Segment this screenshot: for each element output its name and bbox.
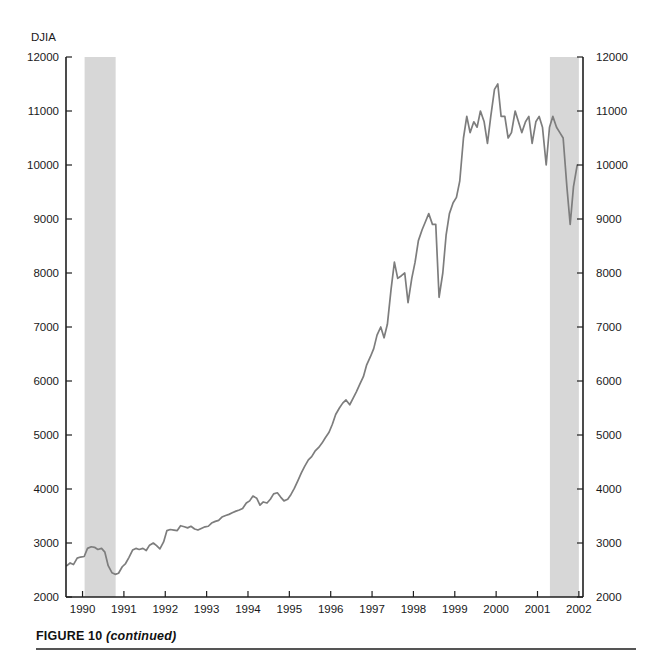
recession-2001 — [550, 57, 579, 597]
figure-container: 2000300040005000600070008000900010000110… — [0, 0, 663, 657]
y-tick-label-left-6000: 6000 — [33, 375, 59, 387]
recession-1990-1991 — [85, 57, 116, 597]
y-tick-label-right-11000: 11000 — [596, 105, 627, 117]
djia-line-chart: 2000300040005000600070008000900010000110… — [0, 0, 663, 620]
y-tick-label-left-5000: 5000 — [33, 429, 59, 441]
y-tick-label-left-4000: 4000 — [33, 483, 59, 495]
x-tick-label-1994: 1994 — [235, 603, 261, 615]
x-tick-label-1998: 1998 — [401, 603, 427, 615]
chart-tick-labels: 2000300040005000600070008000900010000110… — [27, 51, 628, 615]
x-tick-label-1990: 1990 — [70, 603, 96, 615]
x-tick-label-1995: 1995 — [277, 603, 303, 615]
y-tick-label-left-11000: 11000 — [28, 105, 59, 117]
y-tick-label-right-7000: 7000 — [596, 321, 622, 333]
y-tick-label-left-2000: 2000 — [33, 591, 59, 603]
y-axis-title: DJIA — [31, 31, 56, 43]
figure-caption-note: (continued) — [106, 629, 176, 643]
x-tick-label-1996: 1996 — [318, 603, 344, 615]
y-tick-label-right-3000: 3000 — [596, 537, 622, 549]
x-tick-label-1993: 1993 — [194, 603, 220, 615]
x-tick-label-1992: 1992 — [152, 603, 178, 615]
y-tick-label-left-3000: 3000 — [33, 537, 59, 549]
figure-caption-label: FIGURE 10 — [36, 629, 102, 643]
djia-series-group — [67, 84, 577, 574]
y-tick-label-right-6000: 6000 — [596, 375, 622, 387]
y-tick-label-left-10000: 10000 — [27, 159, 59, 171]
y-tick-label-right-12000: 12000 — [596, 51, 628, 63]
y-tick-label-right-8000: 8000 — [596, 267, 622, 279]
x-tick-label-2001: 2001 — [525, 603, 551, 615]
y-tick-label-left-8000: 8000 — [33, 267, 59, 279]
x-tick-label-1997: 1997 — [359, 603, 385, 615]
caption-divider — [36, 648, 636, 650]
x-tick-label-2000: 2000 — [483, 603, 509, 615]
x-tick-label-1999: 1999 — [442, 603, 468, 615]
chart-plot-area: 2000300040005000600070008000900010000110… — [0, 0, 663, 620]
recession-bands — [85, 57, 579, 597]
y-tick-label-left-7000: 7000 — [33, 321, 59, 333]
x-tick-label-1991: 1991 — [111, 603, 137, 615]
y-tick-label-right-4000: 4000 — [596, 483, 622, 495]
figure-caption-block: FIGURE 10 (continued) — [36, 628, 636, 650]
y-tick-label-right-9000: 9000 — [596, 213, 622, 225]
chart-axes — [66, 57, 583, 597]
series-line-djia — [67, 84, 577, 574]
y-tick-label-right-5000: 5000 — [596, 429, 622, 441]
y-tick-label-left-12000: 12000 — [27, 51, 59, 63]
x-tick-label-2002: 2002 — [566, 603, 592, 615]
figure-caption: FIGURE 10 (continued) — [36, 628, 636, 644]
y-tick-label-right-2000: 2000 — [596, 591, 622, 603]
y-tick-label-right-10000: 10000 — [596, 159, 628, 171]
y-tick-label-left-9000: 9000 — [33, 213, 59, 225]
